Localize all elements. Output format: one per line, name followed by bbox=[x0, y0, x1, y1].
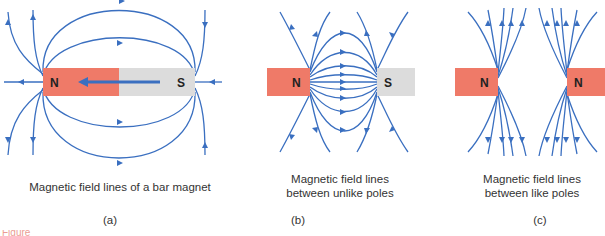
panel-c-arrowheads bbox=[485, 20, 580, 143]
caption-c-line2: between like poles bbox=[462, 186, 602, 200]
caption-b: Magnetic field lines between unlike pole… bbox=[270, 172, 410, 200]
caption-c: Magnetic field lines between like poles bbox=[462, 172, 602, 200]
south-pole-label-b: S bbox=[384, 76, 392, 90]
south-pole-label-a: S bbox=[177, 76, 185, 90]
caption-a: Magnetic field lines of a bar magnet bbox=[20, 180, 220, 194]
caption-b-line1: Magnetic field lines bbox=[270, 172, 410, 186]
north-pole-label-a: N bbox=[50, 76, 59, 90]
north-pole-label-c-right: N bbox=[574, 76, 583, 90]
panel-label-a: (a) bbox=[95, 214, 125, 226]
bar-magnet-a: N S bbox=[43, 68, 195, 96]
footer-text: Figure bbox=[2, 230, 30, 236]
caption-b-line2: between unlike poles bbox=[270, 186, 410, 200]
magnetic-field-diagram: N S bbox=[0, 0, 605, 236]
bar-magnets-c: N N bbox=[455, 68, 605, 96]
figure-caption-fragment: Figure bbox=[0, 230, 605, 236]
north-pole-label-c-left: N bbox=[480, 76, 489, 90]
panel-label-b: (b) bbox=[283, 214, 313, 226]
north-pole-label-b: N bbox=[292, 76, 301, 90]
panel-label-c: (c) bbox=[525, 214, 555, 226]
caption-c-line1: Magnetic field lines bbox=[462, 172, 602, 186]
